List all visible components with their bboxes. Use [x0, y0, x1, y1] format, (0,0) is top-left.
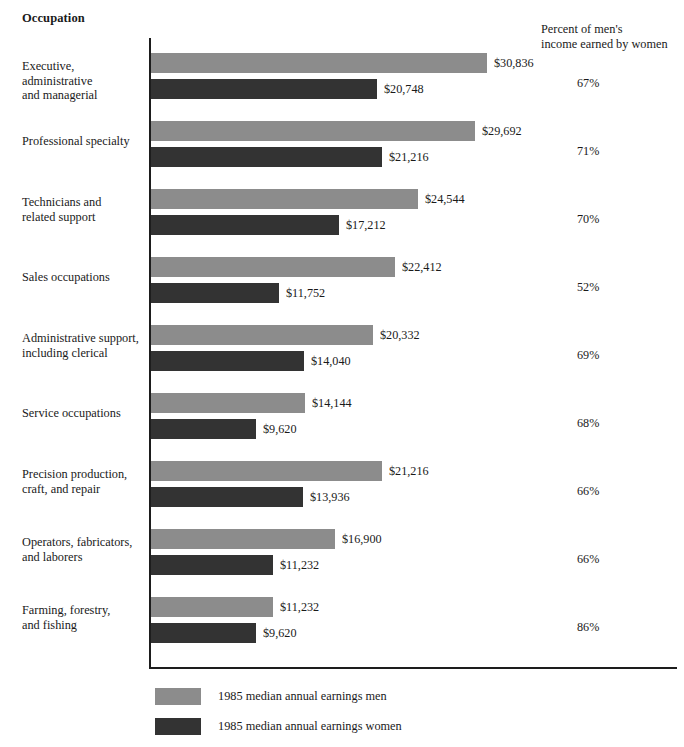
category-label-line1: Precision production,	[22, 467, 146, 482]
bar-chart: Occupation Percent of men's income earne…	[0, 0, 684, 747]
category-label-line2: and fishing	[22, 618, 146, 633]
category-label-line2: related support	[22, 210, 146, 225]
bar-value-men: $29,692	[482, 121, 522, 141]
percent-value: 86%	[577, 620, 637, 635]
percent-value: 66%	[577, 484, 637, 499]
category-label: Farming, forestry,and fishing	[22, 603, 146, 632]
legend-label-women: 1985 median annual earnings women	[218, 718, 402, 735]
bar-women	[151, 555, 273, 575]
category-label: Technicians andrelated support	[22, 195, 146, 224]
percent-value: 67%	[577, 76, 637, 91]
column-header-percent: Percent of men's income earned by women	[541, 22, 684, 52]
category-label: Executive, administrativeand managerial	[22, 59, 146, 103]
percent-value: 68%	[577, 416, 637, 431]
category-label: Sales occupations	[22, 270, 146, 285]
bar-value-men: $20,332	[380, 325, 420, 345]
category-label: Operators, fabricators,and laborers	[22, 535, 146, 564]
bar-men	[151, 121, 475, 141]
bar-value-men: $21,216	[389, 461, 429, 481]
legend-swatch-men-icon	[155, 688, 201, 705]
category-label: Service occupations	[22, 406, 146, 421]
category-label-line1: Executive, administrative	[22, 59, 146, 88]
bar-value-women: $11,232	[280, 555, 319, 575]
category-label: Administrative support,including clerica…	[22, 331, 146, 360]
category-label-line1: Operators, fabricators,	[22, 535, 146, 550]
bar-value-men: $14,144	[312, 393, 352, 413]
category-label-line2: and managerial	[22, 88, 146, 103]
category-label-line2: craft, and repair	[22, 482, 146, 497]
percent-value: 69%	[577, 348, 637, 363]
bar-value-men: $30,836	[494, 53, 534, 73]
bar-women	[151, 487, 303, 507]
bar-men	[151, 529, 335, 549]
category-label-line1: Technicians and	[22, 195, 146, 210]
category-label-line2: including clerical	[22, 346, 146, 361]
axis-horizontal-line	[149, 667, 677, 669]
percent-value: 66%	[577, 552, 637, 567]
bar-women	[151, 79, 377, 99]
bar-value-women: $9,620	[263, 419, 297, 439]
bar-value-men: $16,900	[342, 529, 382, 549]
category-label: Precision production,craft, and repair	[22, 467, 146, 496]
bar-value-women: $9,620	[263, 623, 297, 643]
legend-swatch-women-icon	[155, 718, 201, 735]
bar-women	[151, 351, 304, 371]
percent-value: 52%	[577, 280, 637, 295]
bar-women	[151, 419, 256, 439]
column-header-percent-line1: Percent of men's	[541, 22, 684, 37]
bar-value-women: $14,040	[311, 351, 351, 371]
bar-value-men: $11,232	[280, 597, 319, 617]
bar-value-men: $22,412	[402, 257, 442, 277]
bar-value-women: $11,752	[286, 283, 325, 303]
bar-women	[151, 215, 339, 235]
category-label-line1: Administrative support,	[22, 331, 146, 346]
bar-men	[151, 461, 382, 481]
bar-women	[151, 147, 382, 167]
percent-value: 71%	[577, 144, 637, 159]
column-header-occupation: Occupation	[22, 11, 85, 26]
bar-men	[151, 393, 305, 413]
bar-value-men: $24,544	[425, 189, 465, 209]
bar-men	[151, 53, 487, 73]
category-label-line1: Sales occupations	[22, 270, 146, 285]
percent-value: 70%	[577, 212, 637, 227]
column-header-percent-line2: income earned by women	[541, 37, 684, 52]
legend-label-men: 1985 median annual earnings men	[218, 688, 387, 705]
bar-value-women: $21,216	[389, 147, 429, 167]
bar-men	[151, 597, 273, 617]
bar-men	[151, 189, 418, 209]
bar-women	[151, 623, 256, 643]
category-label: Professional specialty	[22, 134, 146, 149]
category-label-line2: and laborers	[22, 550, 146, 565]
bar-men	[151, 325, 373, 345]
category-label-line1: Professional specialty	[22, 134, 146, 149]
bar-men	[151, 257, 395, 277]
bar-value-women: $17,212	[346, 215, 386, 235]
category-label-line1: Service occupations	[22, 406, 146, 421]
category-label-line1: Farming, forestry,	[22, 603, 146, 618]
bar-value-women: $13,936	[310, 487, 350, 507]
bar-value-women: $20,748	[384, 79, 424, 99]
bar-women	[151, 283, 279, 303]
